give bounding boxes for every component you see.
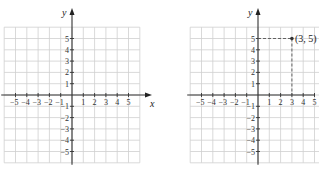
y-axis-label: y [61, 7, 67, 18]
x-tick-label: −5 [196, 98, 205, 107]
x-tick-label: −2 [230, 98, 239, 107]
x-tick-label: −3 [219, 98, 228, 107]
y-tick-label: −3 [60, 125, 69, 134]
y-tick-label: −2 [246, 114, 255, 123]
x-tick-label: 1 [81, 98, 85, 107]
x-tick-label: 4 [301, 98, 305, 107]
x-tick-label: 1 [267, 98, 271, 107]
y-tick-label: −1 [60, 102, 69, 111]
y-tick-label: 3 [65, 57, 69, 66]
y-tick-label: −3 [246, 125, 255, 134]
y-axis-arrow-icon [256, 8, 261, 15]
y-tick-label: 2 [65, 68, 69, 77]
y-tick-label: 1 [65, 80, 69, 89]
x-axis-arrow-icon [145, 93, 152, 98]
x-tick-label: 3 [290, 98, 294, 107]
x-axis-label: x [149, 98, 155, 109]
y-tick-label: −4 [246, 136, 255, 145]
x-tick-label: 2 [93, 98, 97, 107]
x-tick-label: −2 [44, 98, 53, 107]
y-tick-label: −1 [246, 102, 255, 111]
x-tick-label: −3 [33, 98, 42, 107]
point-label: (3, 5) [295, 33, 317, 45]
x-tick-label: −5 [10, 98, 19, 107]
graph-right: y−5−4−3−2−11234554321−1−2−3−4−5(3, 5) [187, 7, 319, 165]
y-axis-label: y [247, 7, 253, 18]
y-tick-label: 4 [65, 46, 69, 55]
y-axis-arrow-icon [70, 8, 75, 15]
y-tick-label: 4 [251, 46, 255, 55]
x-tick-label: −4 [21, 98, 30, 107]
y-tick-label: 1 [251, 80, 255, 89]
coordinate-planes: yx−5−4−3−2−11234554321−1−2−3−4−5y−5−4−3−… [0, 0, 319, 176]
y-tick-label: −2 [60, 114, 69, 123]
x-tick-label: 3 [104, 98, 108, 107]
plotted-point [290, 37, 294, 41]
y-tick-label: 5 [251, 35, 255, 44]
y-tick-label: −5 [246, 148, 255, 157]
y-tick-label: 2 [251, 68, 255, 77]
y-tick-label: −5 [60, 148, 69, 157]
x-tick-label: 2 [279, 98, 283, 107]
x-tick-label: −4 [207, 98, 216, 107]
y-tick-label: 3 [251, 57, 255, 66]
x-tick-label: 5 [313, 98, 317, 107]
graph-left: yx−5−4−3−2−11234554321−1−2−3−4−5 [1, 7, 155, 165]
y-tick-label: 5 [65, 35, 69, 44]
y-tick-label: −4 [60, 136, 69, 145]
x-tick-label: 5 [127, 98, 131, 107]
x-tick-label: 4 [115, 98, 119, 107]
